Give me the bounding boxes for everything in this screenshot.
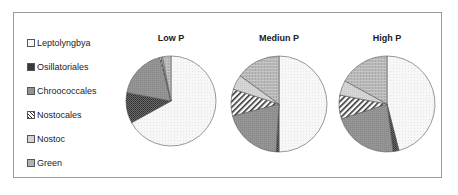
swatch-icon: [27, 159, 35, 167]
pie-svg: [124, 54, 218, 148]
pie-chart-high-p: High P: [332, 20, 442, 154]
pie-chart-low-p: Low P: [116, 20, 226, 148]
legend-label: Nostocales: [37, 110, 82, 120]
legend-item-green: Green: [27, 151, 97, 175]
legend-item-chroococcales: Chroococcales: [27, 79, 97, 103]
legend-item-osillatoriales: Osillatoriales: [27, 55, 97, 79]
legend-label: Chroococcales: [37, 86, 97, 96]
pie-svg: [229, 54, 329, 154]
pie-svg: [337, 54, 437, 154]
pie-title: High P: [332, 30, 442, 46]
legend-item-nostocales: Nostocales: [27, 103, 97, 127]
pie-title: Low P: [116, 30, 226, 46]
legend-item-nostoc: Nostoc: [27, 127, 97, 151]
legend-label: Nostoc: [37, 134, 65, 144]
pie-chart-medium-p: Mediun P: [224, 20, 334, 154]
pie-title: Mediun P: [224, 30, 334, 46]
legend-label: Osillatoriales: [37, 62, 89, 72]
swatch-icon: [27, 39, 35, 47]
pie-slice-leptolyngbya: [279, 56, 327, 152]
swatch-icon: [27, 63, 35, 71]
legend-label: Green: [37, 158, 62, 168]
chart-legend: Leptolyngbya Osillatoriales Chroococcale…: [27, 31, 97, 175]
legend-item-leptolyngbya: Leptolyngbya: [27, 31, 97, 55]
swatch-icon: [27, 111, 35, 119]
swatch-icon: [27, 135, 35, 143]
swatch-icon: [27, 87, 35, 95]
legend-label: Leptolyngbya: [37, 38, 91, 48]
